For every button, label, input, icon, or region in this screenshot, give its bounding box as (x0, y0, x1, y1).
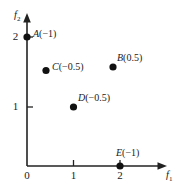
y-tick-label-1: 1 (9, 101, 22, 112)
x-tick-label-1: 1 (65, 170, 83, 181)
point-label-e: E(−1) (116, 148, 139, 158)
y-axis-arrowhead (23, 13, 31, 23)
y-tick-label-2: 2 (9, 31, 22, 42)
x-axis-label: f1 (166, 170, 172, 183)
data-point-b[interactable] (109, 63, 116, 70)
data-point-c[interactable] (42, 67, 49, 74)
y-axis-label: f2 (14, 10, 20, 23)
data-point-d[interactable] (70, 103, 77, 110)
point-label-a: A(−1) (33, 29, 56, 39)
point-label-b: B(0.5) (117, 53, 142, 63)
x-tick-label-2: 2 (111, 170, 129, 181)
x-tick-label-0: 0 (18, 170, 36, 181)
point-label-c: C(−0.5) (52, 62, 83, 72)
point-label-d: D(−0.5) (78, 93, 110, 103)
scatter-plot-figure: f2 f1 0 1 2 1 2 A(−1) C(−0.5) B(0.5) D(−… (0, 0, 189, 189)
data-point-a[interactable] (23, 33, 30, 40)
